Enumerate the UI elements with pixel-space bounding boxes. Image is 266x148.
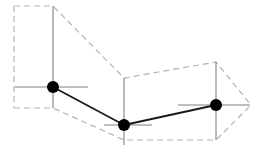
crosshair-group (15, 6, 250, 145)
diagram-canvas (0, 0, 266, 148)
vertex-right-marker (210, 99, 222, 111)
vertex-middle-marker (118, 119, 130, 131)
figure-svg (0, 0, 266, 148)
vertex-left-marker (47, 81, 59, 93)
